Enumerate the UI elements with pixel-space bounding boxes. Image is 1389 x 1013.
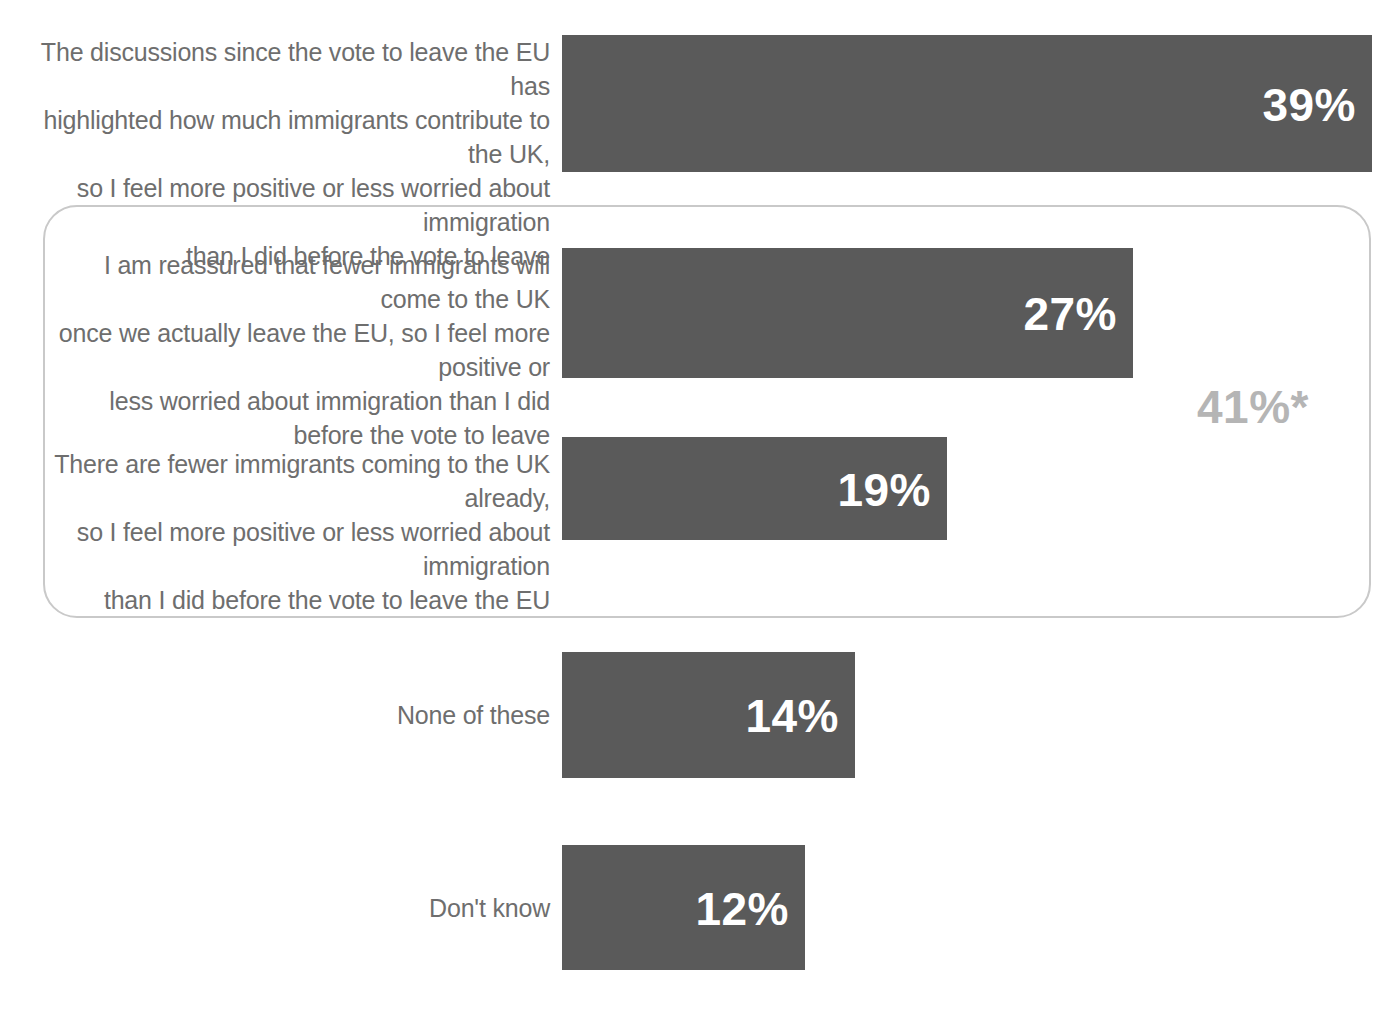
bar-label-dont-know: Don't know [40, 891, 550, 925]
group-total-label: 41%* [1197, 384, 1309, 430]
bar-label-reassured-fewer-immigrants: I am reassured that fewer immigrants wil… [40, 248, 550, 452]
bar-value-discussions-highlighted: 39% [1262, 82, 1356, 128]
bar-discussions-highlighted: 39% [562, 35, 1372, 172]
bar-label-none-of-these: None of these [40, 698, 550, 732]
bar-dont-know: 12% [562, 845, 805, 970]
bar-value-none-of-these: 14% [745, 693, 839, 739]
bar-value-reassured-fewer-immigrants: 27% [1023, 291, 1117, 337]
bar-fewer-immigrants-already: 19% [562, 437, 947, 540]
bar-none-of-these: 14% [562, 652, 855, 778]
horizontal-bar-chart: The discussions since the vote to leave … [0, 0, 1389, 1013]
bar-reassured-fewer-immigrants: 27% [562, 248, 1133, 378]
bar-value-fewer-immigrants-already: 19% [837, 467, 931, 513]
bar-value-dont-know: 12% [695, 886, 789, 932]
bar-label-fewer-immigrants-already: There are fewer immigrants coming to the… [40, 447, 550, 617]
